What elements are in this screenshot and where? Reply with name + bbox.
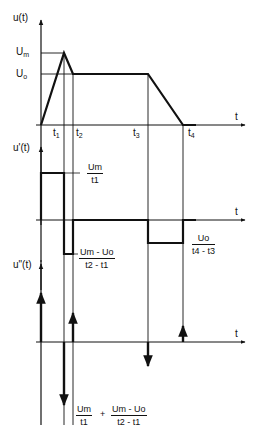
du-curve — [41, 173, 196, 254]
u-axis-label: u(t) — [13, 13, 28, 23]
t1-label: t1 — [53, 128, 60, 141]
t4-label: t4 — [188, 128, 195, 141]
fraction-um-u0-over-t2-t1: Um - Uo t2 - t1 — [79, 247, 115, 270]
ddu-axis-label: u"(t) — [13, 260, 32, 270]
t2-label: t2 — [76, 128, 83, 141]
um-label: Um — [16, 47, 29, 60]
t-axis-label-du: t — [235, 207, 238, 217]
fraction-um-u0-over-t2-t1-bottom: Um - Uo t2 - t1 — [111, 404, 147, 427]
signal-diagram — [0, 0, 254, 442]
plus-sign: + — [100, 409, 105, 419]
t3-label: t3 — [133, 128, 140, 141]
t-axis-label-u: t — [235, 112, 238, 122]
fraction-um-t1: Um t1 — [87, 162, 103, 185]
fraction-um-t1-bottom: Um t1 — [76, 404, 92, 427]
u0-label: Uo — [16, 69, 27, 82]
du-axis-label: u'(t) — [13, 143, 30, 153]
t-axis-label-ddu: t — [235, 329, 238, 339]
fraction-u0-over-t4-t3: Uo t4 - t3 — [192, 233, 215, 256]
